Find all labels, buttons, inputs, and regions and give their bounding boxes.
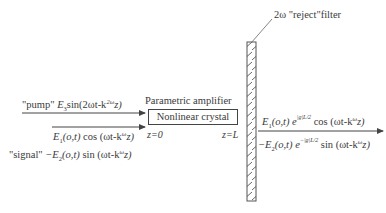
z-end-label: z=L (222, 130, 238, 140)
signal-out-component-1: E1(o,t) e|g|L/2 cos (ωt-kωz) (262, 114, 365, 128)
z-start-label: z=0 (147, 130, 163, 140)
amplifier-label: Parametric amplifier (145, 96, 232, 107)
signal-out-component-2: −E2(o,t) e−|g|L/2 sin (ωt-kωz) (258, 137, 370, 151)
signal-in-component-1: E1(o,t) cos (ωt-kωz) (53, 132, 134, 143)
filter-leader-line (251, 19, 272, 43)
pump-label: "pump" E3sin(2ωt-k2ωz) (22, 100, 122, 111)
reject-filter (247, 42, 256, 201)
signal-tag: "signal" (9, 149, 43, 160)
filter-label: 2ω "reject"filter (274, 10, 341, 21)
nonlinear-crystal: Nonlinear crystal (148, 109, 238, 125)
signal-in-component-2: "signal" −E2(o,t) sin (ωt-kωz) (9, 150, 132, 161)
pump-tag: "pump" (22, 99, 55, 110)
